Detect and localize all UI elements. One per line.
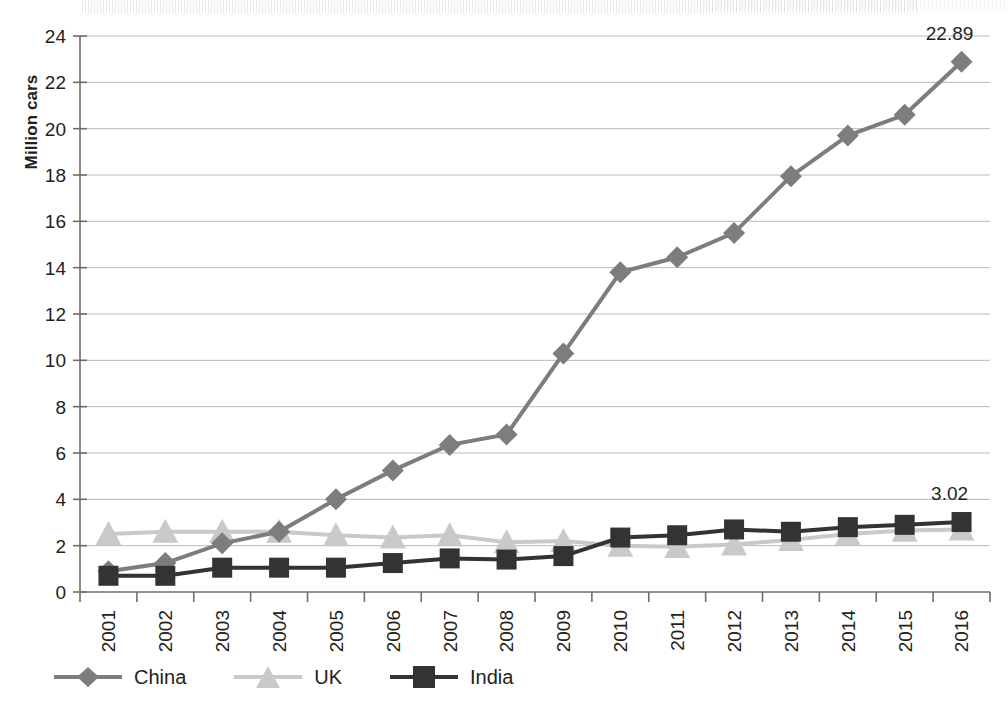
series-line-china — [108, 62, 961, 571]
data-point-india — [497, 550, 517, 570]
data-point-india — [781, 522, 801, 542]
data-point-india — [895, 515, 915, 535]
data-point-india — [326, 558, 346, 578]
data-point-india — [553, 546, 573, 566]
axes — [73, 36, 990, 602]
data-label-china: 22.89 — [926, 23, 974, 44]
legend-item-china[interactable]: China — [52, 664, 232, 690]
legend-marker-china — [52, 664, 124, 690]
x-tick-label: 2005 — [326, 610, 347, 652]
x-tick-label: 2006 — [383, 610, 404, 652]
y-tick-label: 0 — [55, 582, 66, 603]
data-label-india: 3.02 — [931, 483, 968, 504]
data-point-india — [610, 528, 630, 548]
data-point-india — [440, 548, 460, 568]
data-point-india — [724, 519, 744, 539]
legend-marker-india — [388, 664, 460, 690]
data-point-china — [325, 488, 347, 510]
x-tick-label: 2012 — [724, 610, 745, 652]
y-tick-label: 18 — [45, 165, 66, 186]
series-china — [97, 51, 972, 582]
legend-label-uk: UK — [314, 666, 342, 689]
data-point-india — [155, 566, 175, 586]
data-point-india — [383, 553, 403, 573]
x-tick-label: 2003 — [212, 610, 233, 652]
x-tick-label: 2007 — [440, 610, 461, 652]
x-tick-label: 2004 — [269, 610, 290, 653]
x-tick-label: 2002 — [155, 610, 176, 652]
y-tick-label: 24 — [45, 26, 67, 47]
y-tick-label: 6 — [55, 443, 66, 464]
y-tick-label: 2 — [55, 536, 66, 557]
x-tick-label: 2001 — [98, 610, 119, 652]
x-tick-label: 2014 — [838, 610, 859, 653]
data-point-china — [382, 459, 404, 481]
y-tick-label: 8 — [55, 397, 66, 418]
x-tick-label: 2015 — [895, 610, 916, 652]
series-india — [98, 512, 971, 586]
y-tick-label: 4 — [55, 489, 66, 510]
data-point-india — [667, 525, 687, 545]
line-chart: 024681012141618202224 200120022003200420… — [0, 0, 1008, 714]
data-point-india — [212, 558, 232, 578]
legend-item-uk[interactable]: UK — [232, 664, 388, 690]
data-point-india — [98, 566, 118, 586]
y-tick-label: 12 — [45, 304, 66, 325]
data-point-china — [666, 246, 688, 268]
legend-item-india[interactable]: India — [388, 664, 559, 690]
y-tick-label: 20 — [45, 119, 66, 140]
x-tick-label: 2011 — [667, 610, 688, 651]
chart-legend: China UK India — [52, 664, 559, 690]
chart-page: Million cars 024681012141618202224 20012… — [0, 0, 1008, 714]
y-tick-label: 16 — [45, 211, 66, 232]
data-series — [95, 51, 974, 586]
data-point-india — [838, 517, 858, 537]
x-tick-label: 2008 — [496, 610, 517, 652]
x-tick-label: 2009 — [553, 610, 574, 652]
legend-label-china: China — [134, 666, 186, 689]
x-axis-tick-labels: 2001200220032004200520062007200820092010… — [98, 610, 972, 653]
y-tick-label: 10 — [45, 350, 66, 371]
y-axis-tick-labels: 024681012141618202224 — [45, 26, 67, 603]
x-tick-label: 2016 — [951, 610, 972, 652]
data-point-labels: 22.893.02 — [926, 23, 974, 504]
data-point-india — [269, 558, 289, 578]
legend-label-india: India — [470, 666, 513, 689]
x-tick-label: 2010 — [610, 610, 631, 652]
x-tick-label: 2013 — [781, 610, 802, 652]
gridlines — [80, 36, 990, 546]
legend-marker-uk — [232, 664, 304, 690]
data-point-india — [952, 512, 972, 532]
y-tick-label: 22 — [45, 72, 66, 93]
y-tick-label: 14 — [45, 258, 67, 279]
series-line-uk — [108, 529, 961, 546]
